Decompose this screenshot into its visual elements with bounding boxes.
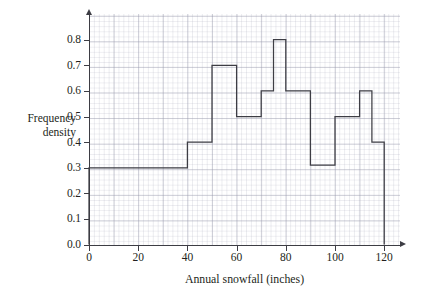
graph-paper-grid — [89, 14, 400, 246]
y-tick-8 — [84, 40, 90, 41]
x-axis-arrow-icon — [400, 241, 406, 247]
x-tick-label-20: 20 — [118, 251, 158, 263]
x-tick-label-40: 40 — [167, 251, 207, 263]
histogram-chart: 0.0 0.1 0.2 0.3 0.4 0.5 0.6 0.7 0.8 0 20… — [0, 0, 430, 298]
y-tick-label-1: 0.1 — [41, 213, 81, 225]
y-tick-label-0: 0.0 — [41, 239, 81, 251]
x-tick-label-80: 80 — [266, 251, 306, 263]
y-axis-arrow-icon — [86, 9, 92, 15]
y-tick-1 — [84, 219, 90, 220]
y-tick-3 — [84, 168, 90, 169]
y-axis-title-line-2: density — [2, 126, 76, 140]
x-tick-label-100: 100 — [315, 251, 355, 263]
x-tick-label-120: 120 — [364, 251, 404, 263]
x-tick-60 — [237, 245, 238, 251]
y-tick-2 — [84, 193, 90, 194]
y-tick-7 — [84, 65, 90, 66]
y-tick-4 — [84, 142, 90, 143]
y-axis-line — [89, 14, 90, 245]
x-tick-80 — [286, 245, 287, 251]
y-tick-6 — [84, 91, 90, 92]
x-tick-label-60: 60 — [217, 251, 257, 263]
y-tick-label-7: 0.7 — [41, 60, 81, 72]
y-tick-label-6: 0.6 — [41, 85, 81, 97]
x-axis-line — [89, 245, 402, 246]
x-axis-title: Annual snowfall (inches) — [89, 273, 400, 286]
y-tick-label-8: 0.8 — [41, 34, 81, 46]
x-tick-120 — [384, 245, 385, 251]
x-tick-100 — [335, 245, 336, 251]
y-tick-5 — [84, 117, 90, 118]
y-axis-title-line-1: Frequency — [2, 112, 76, 126]
y-axis-title: Frequency density — [2, 112, 76, 139]
x-tick-20 — [138, 245, 139, 251]
x-tick-0 — [89, 245, 90, 251]
y-tick-label-2: 0.2 — [41, 188, 81, 200]
y-tick-label-3: 0.3 — [41, 162, 81, 174]
x-tick-40 — [187, 245, 188, 251]
x-tick-label-0: 0 — [69, 251, 109, 263]
